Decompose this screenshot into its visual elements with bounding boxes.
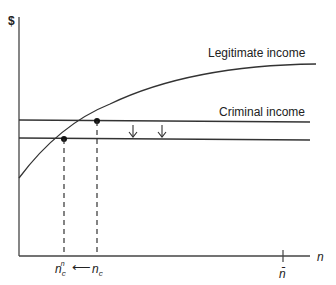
n-bar-label: n̄: [279, 267, 286, 281]
down-arrow-icon: [158, 125, 166, 137]
x-axis-label: n: [317, 250, 324, 264]
nc-new-label: ncn: [55, 260, 66, 278]
shift-arrow: ⟵: [72, 260, 91, 275]
criminal-income-label: Criminal income: [219, 105, 305, 119]
y-axis-label: $: [8, 14, 15, 28]
legitimate-income-label: Legitimate income: [208, 46, 306, 60]
nc-label: nc: [92, 262, 103, 278]
income-diagram: $ n n̄ Legitimate income Criminal income…: [0, 0, 336, 285]
down-arrow-icon: [129, 125, 137, 137]
criminal-income-line-original: [19, 120, 310, 122]
